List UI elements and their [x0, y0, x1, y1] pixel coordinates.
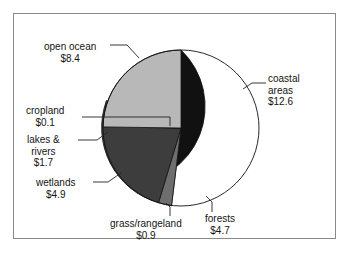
slice-label-coastal-areas-value: $12.6 [268, 96, 300, 108]
slice-label-grass-rangeland: grass/rangeland $0.9 [110, 218, 182, 241]
slice-label-coastal-areas-line1: coastal [268, 73, 300, 85]
slice-label-grass-rangeland-name: grass/rangeland [110, 218, 182, 230]
slice-label-coastal-areas: coastal areas $12.6 [268, 73, 300, 108]
slice-label-forests-name: forests [205, 213, 235, 225]
slice-label-open-ocean-name: open ocean [44, 41, 96, 53]
pie-slice-open-ocean [103, 50, 181, 128]
slice-label-grass-rangeland-value: $0.9 [110, 230, 182, 242]
slice-label-forests-value: $4.7 [205, 225, 235, 237]
leader-line-open-ocean [110, 45, 139, 58]
slice-label-open-ocean-value: $8.4 [44, 53, 96, 65]
slice-label-lakes-rivers-value: $1.7 [27, 157, 60, 169]
slice-label-cropland-name: cropland [26, 105, 64, 117]
slice-label-lakes-rivers-line2: rivers [27, 146, 60, 158]
slice-label-wetlands-value: $4.9 [36, 189, 75, 201]
slice-label-lakes-rivers-line1: lakes & [27, 134, 60, 146]
slice-label-open-ocean: open ocean $8.4 [44, 41, 96, 64]
slice-label-cropland: cropland $0.1 [26, 105, 64, 128]
slice-label-forests: forests $4.7 [205, 213, 235, 236]
slice-label-cropland-value: $0.1 [26, 117, 64, 129]
slice-label-coastal-areas-line2: areas [268, 85, 300, 97]
pie-chart-figure: open ocean $8.4 coastal areas $12.6 crop… [0, 0, 352, 259]
leader-line-forests [206, 196, 212, 212]
slice-label-lakes-rivers: lakes & rivers $1.7 [27, 134, 60, 169]
slice-label-wetlands-name: wetlands [36, 177, 75, 189]
slice-label-wetlands: wetlands $4.9 [36, 177, 75, 200]
